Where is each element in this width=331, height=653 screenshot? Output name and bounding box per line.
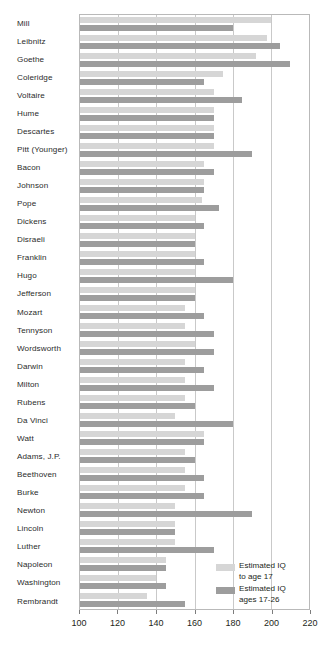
x-tick-mark	[156, 610, 157, 614]
bar-series-b	[80, 529, 175, 535]
iq-bar-chart: MillLeibnitzGoetheColeridgeVoltaireHumeD…	[0, 0, 331, 653]
bar-group	[80, 105, 309, 123]
category-label: Disraeli	[0, 231, 76, 249]
category-label: Rembrandt	[0, 592, 76, 610]
category-label: Adams, J.P.	[0, 448, 76, 466]
bar-series-b	[80, 295, 195, 301]
bar-series-b	[80, 115, 214, 121]
bar-series-a	[80, 233, 195, 239]
category-label: Beethoven	[0, 466, 76, 484]
bar-series-a	[80, 359, 185, 365]
bar-series-a	[80, 323, 185, 329]
category-label-column: MillLeibnitzGoetheColeridgeVoltaireHumeD…	[0, 14, 76, 610]
bar-series-b	[80, 331, 214, 337]
bar-series-b	[80, 547, 214, 553]
category-label: Watt	[0, 429, 76, 447]
bar-series-a	[80, 251, 195, 257]
bar-series-a	[80, 467, 185, 473]
category-label: Johnson	[0, 177, 76, 195]
category-label: Washington	[0, 574, 76, 592]
x-axis: 100120140160180200220	[79, 610, 310, 636]
bar-group	[80, 141, 309, 159]
category-label: Burke	[0, 484, 76, 502]
bar-series-a	[80, 143, 214, 149]
x-tick-label: 120	[110, 618, 125, 628]
bar-series-b	[80, 259, 204, 265]
bar-series-b	[80, 97, 242, 103]
x-tick-mark	[79, 610, 80, 614]
bar-series-a	[80, 395, 185, 401]
bar-series-b	[80, 223, 204, 229]
bar-series-b	[80, 601, 185, 607]
bar-series-a	[80, 53, 256, 59]
bar-group	[80, 69, 309, 87]
bar-series-b	[80, 511, 252, 517]
bar-series-a	[80, 593, 147, 599]
bar-series-b	[80, 61, 290, 67]
legend-swatch	[216, 564, 235, 571]
bar-series-b	[80, 565, 166, 571]
category-label: Napoleon	[0, 556, 76, 574]
bar-series-a	[80, 35, 267, 41]
category-label: Dickens	[0, 213, 76, 231]
category-label: Jefferson	[0, 285, 76, 303]
bar-series-a	[80, 161, 204, 167]
bar-group	[80, 429, 309, 447]
bar-series-a	[80, 575, 156, 581]
bar-series-a	[80, 449, 185, 455]
x-tick-mark	[117, 610, 118, 614]
bar-series-b	[80, 421, 233, 427]
category-label: Pope	[0, 195, 76, 213]
bar-series-a	[80, 17, 271, 23]
bar-series-b	[80, 151, 252, 157]
bars-layer	[80, 15, 309, 609]
bar-series-a	[80, 341, 195, 347]
legend-label: Estimated IQ ages 17-26	[239, 584, 286, 605]
bar-series-a	[80, 521, 175, 527]
x-tick-label: 160	[187, 618, 202, 628]
category-label: Voltaire	[0, 86, 76, 104]
bar-group	[80, 177, 309, 195]
bar-group	[80, 483, 309, 501]
bar-group	[80, 303, 309, 321]
category-label: Pitt (Younger)	[0, 140, 76, 158]
bar-series-b	[80, 349, 214, 355]
bar-series-b	[80, 439, 204, 445]
category-label: Tennyson	[0, 321, 76, 339]
category-label: Mozart	[0, 303, 76, 321]
bar-group	[80, 339, 309, 357]
bar-group	[80, 321, 309, 339]
x-tick-label: 180	[225, 618, 240, 628]
category-label: Rubens	[0, 393, 76, 411]
bar-group	[80, 249, 309, 267]
bar-series-a	[80, 89, 214, 95]
category-label: Hugo	[0, 267, 76, 285]
bar-series-a	[80, 539, 175, 545]
bar-series-a	[80, 125, 214, 131]
bar-group	[80, 195, 309, 213]
x-tick-label: 140	[148, 618, 163, 628]
bar-group	[80, 375, 309, 393]
bar-group	[80, 537, 309, 555]
bar-series-b	[80, 313, 204, 319]
category-label: Goethe	[0, 50, 76, 68]
bar-group	[80, 447, 309, 465]
bar-series-a	[80, 179, 204, 185]
bar-series-a	[80, 431, 204, 437]
bar-series-a	[80, 215, 195, 221]
bar-series-b	[80, 475, 204, 481]
x-tick-mark	[272, 610, 273, 614]
bar-series-b	[80, 493, 204, 499]
x-tick-label: 100	[71, 618, 86, 628]
bar-group	[80, 393, 309, 411]
category-label: Darwin	[0, 357, 76, 375]
bar-group	[80, 87, 309, 105]
category-label: Newton	[0, 502, 76, 520]
bar-series-a	[80, 485, 185, 491]
legend-swatch	[216, 587, 235, 594]
x-tick-mark	[310, 610, 311, 614]
bar-series-b	[80, 187, 204, 193]
bar-series-a	[80, 503, 175, 509]
bar-series-b	[80, 25, 233, 31]
bar-series-a	[80, 557, 166, 563]
